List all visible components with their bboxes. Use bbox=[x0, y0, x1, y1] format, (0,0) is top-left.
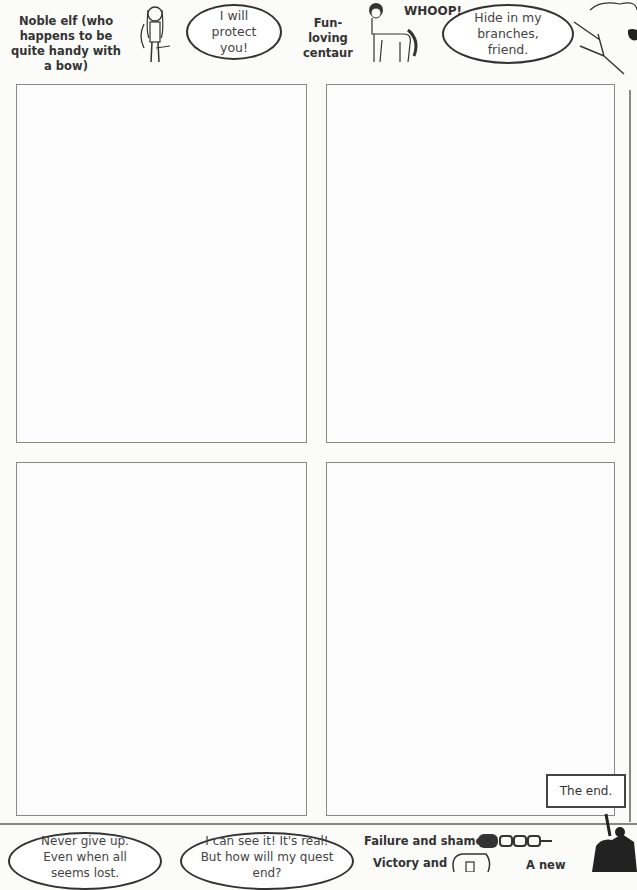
failure-caption: Failure and shame? bbox=[364, 834, 490, 849]
panel-top-left[interactable] bbox=[16, 84, 307, 443]
chain-icon bbox=[476, 832, 558, 850]
elf-caption: Noble elf (who happens to be quite handy… bbox=[6, 14, 126, 74]
panel-top-right[interactable] bbox=[326, 84, 615, 443]
bottom-separator bbox=[0, 823, 637, 825]
bubble-2-text: I can see it! It's real! But how will my… bbox=[197, 833, 337, 881]
knight-on-horse-icon bbox=[582, 812, 637, 872]
tree-speech-text: Hide in my branches, friend. bbox=[463, 10, 553, 58]
bottom-bubble-2: I can see it! It's real! But how will my… bbox=[180, 832, 354, 890]
elf-figure-icon bbox=[136, 2, 174, 68]
the-end-label: The end. bbox=[546, 774, 626, 808]
bubble-1-text: Never give up. Even when all seems lost. bbox=[25, 833, 145, 881]
tree-figure-icon bbox=[570, 0, 637, 80]
victory-caption: Victory and bbox=[373, 856, 447, 871]
new-caption: A new bbox=[526, 858, 566, 873]
tree-speech-bubble: Hide in my branches, friend. bbox=[442, 4, 574, 64]
panel-bottom-left[interactable] bbox=[16, 462, 307, 816]
page-edge-line bbox=[629, 90, 631, 822]
elf-speech-text: I will protect you! bbox=[199, 8, 269, 56]
scroll-icon bbox=[446, 852, 492, 872]
panel-bottom-right[interactable] bbox=[326, 462, 615, 816]
elf-speech-bubble: I will protect you! bbox=[186, 4, 282, 60]
centaur-caption: Fun-loving centaur bbox=[296, 16, 360, 61]
bottom-bubble-1: Never give up. Even when all seems lost. bbox=[8, 832, 162, 890]
